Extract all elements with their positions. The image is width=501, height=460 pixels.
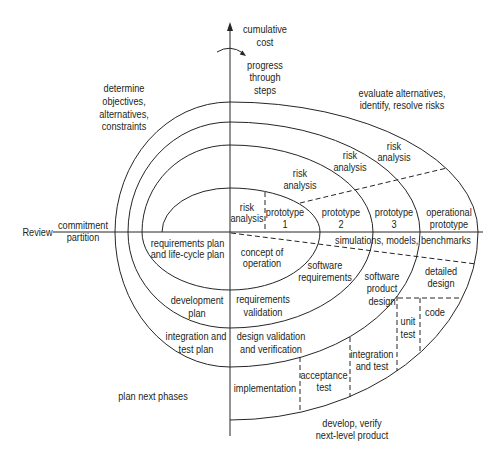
prototype-1: prototype1 — [266, 206, 305, 230]
svg-text:prototype3: prototype3 — [375, 206, 414, 230]
quadrant-label-risks: evaluate alternatives,identify, resolve … — [359, 87, 446, 112]
svg-text:determineobjectives,alternativ: determineobjectives,alternatives,constra… — [99, 82, 149, 133]
svg-text:develop, verifynext-level prod: develop, verifynext-level product — [316, 417, 389, 441]
requirements-validation-label: requirementsvalidation — [236, 293, 290, 318]
operational-prototype: operationalprototype — [426, 206, 471, 230]
requirements-plan-label: requirements planand life-cycle plan — [151, 237, 225, 261]
commitment-partition-label: commitmentpartition — [58, 219, 108, 243]
svg-text:concept ofoperation: concept ofoperation — [241, 246, 284, 270]
svg-text:implementation: implementation — [234, 382, 297, 394]
svg-text:requirementsvalidation: requirementsvalidation — [236, 293, 290, 318]
svg-text:evaluate alternatives,identify: evaluate alternatives,identify, resolve … — [359, 87, 446, 112]
svg-text:cumulativecost: cumulativecost — [243, 23, 287, 48]
integration-test-label: integrationand test — [351, 348, 394, 372]
svg-text:integration andtest plan: integration andtest plan — [166, 330, 227, 355]
svg-text:progressthroughsteps: progressthroughsteps — [247, 59, 283, 96]
software-product-design-label: softwareproductdesign — [365, 270, 400, 307]
acceptance-test-label: acceptancetest — [300, 369, 347, 393]
vertical-axis-arrow-icon — [227, 22, 233, 31]
code-label: code — [425, 306, 445, 318]
implementation-label: implementation — [234, 382, 297, 394]
svg-text:integrationand test: integrationand test — [351, 348, 394, 372]
cumulative-cost-label: cumulativecost — [243, 23, 287, 48]
unit-test-label: unittest — [401, 315, 416, 340]
spiral-path — [115, 102, 478, 420]
simulations-label: simulations, models, benchmarks — [335, 234, 471, 246]
svg-text:commitmentpartition: commitmentpartition — [58, 219, 108, 243]
prototype-2: prototype2 — [322, 206, 361, 230]
svg-text:riskanalysis: riskanalysis — [283, 167, 316, 191]
svg-text:operationalprototype: operationalprototype — [426, 206, 471, 230]
quadrant-label-develop: develop, verifynext-level product — [316, 417, 389, 441]
svg-text:acceptancetest: acceptancetest — [300, 369, 347, 393]
svg-text:requirements planand life-cycl: requirements planand life-cycle plan — [151, 237, 225, 261]
svg-text:simulations, models, benchmark: simulations, models, benchmarks — [335, 234, 471, 246]
detailed-design-label: detaileddesign — [425, 265, 457, 289]
svg-text:riskanalysis: riskanalysis — [230, 201, 263, 225]
svg-text:plan next phases: plan next phases — [118, 390, 188, 402]
svg-text:Review: Review — [22, 226, 53, 238]
review-label: Review — [22, 226, 53, 238]
svg-text:softwareproductdesign: softwareproductdesign — [365, 270, 400, 307]
integration-test-plan-label: integration andtest plan — [166, 330, 227, 355]
spiral-model-diagram: cumulativecost progressthroughsteps Revi… — [0, 0, 501, 460]
svg-text:design validationand verificat: design validationand verification — [237, 330, 306, 355]
svg-text:detaileddesign: detaileddesign — [425, 265, 457, 289]
risk-analysis-1: riskanalysis — [230, 201, 263, 225]
risk-analysis-divider — [300, 168, 447, 203]
risk-analysis-4: riskanalysis — [377, 140, 410, 164]
progress-label: progressthroughsteps — [247, 59, 283, 96]
svg-text:prototype2: prototype2 — [322, 206, 361, 230]
svg-text:riskanalysis: riskanalysis — [377, 140, 410, 164]
concept-of-operation-label: concept ofoperation — [241, 246, 284, 270]
svg-text:unittest: unittest — [401, 315, 416, 340]
risk-analysis-2: riskanalysis — [283, 167, 316, 191]
svg-text:code: code — [425, 306, 445, 318]
prototype-3: prototype3 — [375, 206, 414, 230]
svg-text:prototype1: prototype1 — [266, 206, 305, 230]
design-validation-label: design validationand verification — [237, 330, 306, 355]
quadrant-label-objectives: determineobjectives,alternatives,constra… — [99, 82, 149, 133]
quadrant-label-plan: plan next phases — [118, 390, 188, 402]
